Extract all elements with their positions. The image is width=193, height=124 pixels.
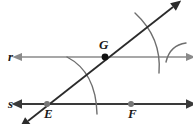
arc-at-G-large — [135, 13, 159, 73]
point-label-E: E — [43, 106, 53, 121]
line-label-r: r — [8, 49, 14, 64]
arc-at-G-small — [166, 43, 186, 62]
arc-at-E — [67, 57, 97, 114]
point-label-G: G — [99, 37, 109, 52]
point-G-dot — [102, 54, 109, 61]
line-label-s: s — [7, 96, 13, 111]
point-label-F: F — [127, 106, 137, 121]
geometry-diagram-svg: r s G E F — [0, 0, 193, 124]
geometry-figure: r s G E F — [0, 0, 193, 124]
